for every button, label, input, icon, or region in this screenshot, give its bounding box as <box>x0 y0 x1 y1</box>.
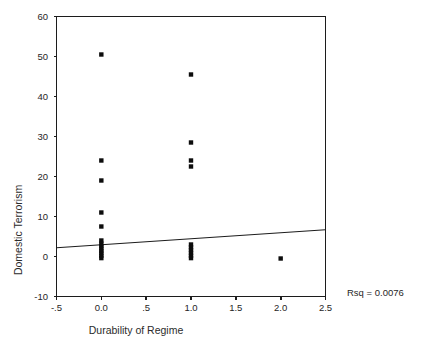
y-tick-label-30: 30 <box>37 131 48 142</box>
x-tick-label-2.5: 2.5 <box>319 302 332 313</box>
data-point <box>99 224 103 228</box>
scatterplot-figure: -10 0 10 20 30 40 50 60 -.5 0.0 .5 1.0 1… <box>0 0 423 356</box>
data-point <box>278 256 282 260</box>
data-point <box>189 164 193 168</box>
plot-canvas: -10 0 10 20 30 40 50 60 -.5 0.0 .5 1.0 1… <box>0 0 423 356</box>
x-tick-label-1.5: 1.5 <box>229 302 242 313</box>
data-point <box>99 210 103 214</box>
x-tick-label-2.0: 2.0 <box>274 302 287 313</box>
data-point <box>189 72 193 76</box>
data-point <box>99 178 103 182</box>
y-axis-title: Domestic Terrorism <box>12 185 24 275</box>
x-tick-label-0.5: .5 <box>142 302 150 313</box>
x-axis-tick-labels: -.5 0.0 .5 1.0 1.5 2.0 2.5 <box>51 302 332 313</box>
x-tick-label-1.0: 1.0 <box>184 302 197 313</box>
y-tick-label--10: -10 <box>34 291 48 302</box>
y-tick-label-20: 20 <box>37 171 48 182</box>
y-tick-label-0: 0 <box>43 251 48 262</box>
data-point <box>189 158 193 162</box>
y-tick-label-40: 40 <box>37 91 48 102</box>
x-axis-title: Durability of Regime <box>89 324 184 336</box>
data-point <box>99 158 103 162</box>
rsq-annotation: Rsq = 0.0076 <box>347 287 404 298</box>
y-axis-tick-labels: -10 0 10 20 30 40 50 60 <box>34 11 48 302</box>
data-point <box>99 52 103 56</box>
data-point-markers <box>99 52 283 260</box>
y-tick-label-10: 10 <box>37 211 48 222</box>
y-tick-label-60: 60 <box>37 11 48 22</box>
data-point <box>189 140 193 144</box>
x-tick-label--0.5: -.5 <box>51 302 62 313</box>
y-tick-label-50: 50 <box>37 51 48 62</box>
x-tick-label-0.0: 0.0 <box>95 302 108 313</box>
data-point <box>189 256 193 260</box>
data-point <box>99 256 103 260</box>
